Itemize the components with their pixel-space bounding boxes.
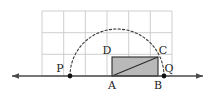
point-dot-p [68,74,73,79]
point-label-p: P [56,62,64,75]
geometry-figure: P Q A B C D [0,0,211,93]
point-label-a: A [107,79,117,92]
point-label-c: C [159,44,167,57]
point-label-b: B [154,79,162,92]
point-label-q: Q [164,62,173,75]
point-label-d: D [103,44,112,57]
